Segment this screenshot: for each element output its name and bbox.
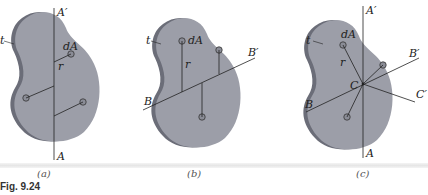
axis-end-label: A′ <box>56 6 68 19</box>
label-t: t <box>0 34 5 47</box>
figure-caption: Fig. 9.24 <box>0 181 40 192</box>
panel-label-c: (c) <box>356 168 370 179</box>
panel-b: t dA r B B′ (b) <box>143 18 259 179</box>
axis-start-label: A <box>56 150 65 163</box>
figure-diagram: t dA r A′ A (a) t dA r B B′ (b) <box>0 0 428 195</box>
panel-c: t dA r C A′ A B B′ C′ (c) <box>303 4 427 179</box>
svg-text:B′: B′ <box>247 46 259 59</box>
svg-text:C: C <box>350 79 359 92</box>
svg-text:C′: C′ <box>416 88 427 101</box>
svg-text:B: B <box>143 95 152 108</box>
svg-text:B′: B′ <box>408 47 420 60</box>
svg-text:r: r <box>340 56 346 69</box>
panel-a: t dA r A′ A (a) <box>0 6 100 179</box>
svg-text:dA: dA <box>188 34 203 47</box>
label-r: r <box>58 60 64 73</box>
svg-text:t: t <box>306 34 311 47</box>
svg-text:B: B <box>304 98 313 111</box>
panel-label-b: (b) <box>187 168 201 179</box>
label-da: dA <box>63 40 78 53</box>
svg-text:t: t <box>146 34 151 47</box>
panel-label-a: (a) <box>37 168 51 179</box>
svg-text:dA: dA <box>341 28 356 41</box>
svg-text:A′: A′ <box>365 4 377 17</box>
svg-text:A: A <box>365 147 374 160</box>
svg-text:r: r <box>185 58 191 71</box>
